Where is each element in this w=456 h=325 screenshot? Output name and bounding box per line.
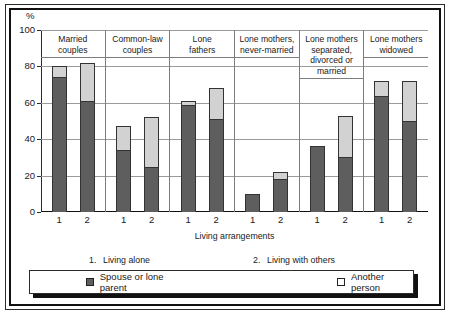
y-axis-tick-label: 60: [0, 98, 35, 108]
bar-segment-spouse-or-lone-parent: [80, 101, 95, 212]
bar[interactable]: [80, 63, 95, 212]
bar-segment-spouse-or-lone-parent: [310, 146, 325, 212]
legend: Spouse or lone parent Another person: [29, 270, 414, 294]
bar-segment-another-person: [52, 66, 67, 77]
bar-segment-spouse-or-lone-parent: [374, 96, 389, 212]
y-axis-tick-label: 40: [0, 134, 35, 144]
bar-segment-spouse-or-lone-parent: [273, 179, 288, 212]
bar-segment-spouse-or-lone-parent: [116, 150, 131, 212]
bar[interactable]: [116, 126, 131, 212]
x-axis-title: Living arrangements: [41, 231, 428, 241]
x-tick-group: 12: [235, 214, 300, 225]
bar-segment-another-person: [273, 172, 288, 179]
bar-group: [41, 30, 106, 212]
bar[interactable]: [181, 101, 196, 212]
bar[interactable]: [245, 194, 260, 212]
legend-label-spouse-or-lone-parent: Spouse or lone parent: [100, 271, 189, 293]
x-axis-tick-label: 1: [374, 214, 389, 225]
x-axis-tick-label: 2: [209, 214, 224, 225]
bar[interactable]: [209, 88, 224, 212]
x-axis-tick-label: 1: [245, 214, 260, 225]
bar[interactable]: [338, 116, 353, 212]
x-axis-tick-label: 1: [181, 214, 196, 225]
x-axis-tick-label: 1: [52, 214, 67, 225]
bar-segment-spouse-or-lone-parent: [338, 157, 353, 212]
bar-group: [299, 30, 364, 212]
bar-segment-another-person: [80, 63, 95, 101]
bar[interactable]: [273, 172, 288, 212]
bar[interactable]: [374, 81, 389, 212]
x-axis-tick-label: 2: [80, 214, 95, 225]
bar-group: [235, 30, 300, 212]
bar-segment-another-person: [144, 117, 159, 166]
bar-segment-spouse-or-lone-parent: [181, 105, 196, 212]
bar-segment-another-person: [338, 116, 353, 158]
bar-segment-spouse-or-lone-parent: [402, 121, 417, 212]
x-axis-tick-label: 2: [273, 214, 288, 225]
legend-item-another-person: Another person: [337, 271, 413, 293]
legend-swatch-dark-icon: [86, 278, 94, 286]
bar-segment-spouse-or-lone-parent: [209, 119, 224, 212]
bar[interactable]: [144, 117, 159, 212]
x-axis-tick-label: 2: [402, 214, 417, 225]
y-axis-unit-label: %: [26, 10, 34, 21]
bar-segment-another-person: [116, 126, 131, 150]
chart-figure: % 020406080100 MarriedcouplesCommon-lawc…: [0, 0, 456, 325]
x-axis-tick-label: 2: [144, 214, 159, 225]
x-tick-group: 12: [41, 214, 106, 225]
bar-segment-another-person: [374, 81, 389, 96]
subgroup-key-2-num: 2.: [253, 255, 267, 265]
legend-label-another-person: Another person: [351, 271, 413, 293]
bar-segment-spouse-or-lone-parent: [144, 167, 159, 213]
bar-segment-spouse-or-lone-parent: [52, 77, 67, 212]
legend-swatch-light-icon: [337, 278, 345, 286]
subgroup-key-2-label: Living with others: [267, 255, 335, 265]
bar-group: [106, 30, 171, 212]
bar-segment-another-person: [402, 81, 417, 121]
x-tick-group: 12: [106, 214, 171, 225]
x-tick-group: 12: [299, 214, 364, 225]
bar[interactable]: [310, 146, 325, 212]
y-axis-tick-label: 80: [0, 62, 35, 72]
subgroup-key-2: 2.Living with others: [253, 255, 335, 265]
y-axis-tick-label: 0: [0, 207, 35, 217]
bar-group: [364, 30, 429, 212]
subgroup-key-1-label: Living alone: [103, 255, 150, 265]
bar-segment-spouse-or-lone-parent: [245, 194, 260, 212]
x-tick-group: 12: [170, 214, 235, 225]
y-axis-tick-label: 100: [0, 25, 35, 35]
x-axis-tick-label: 1: [116, 214, 131, 225]
y-axis-tick-label: 20: [0, 171, 35, 181]
x-tick-group: 12: [364, 214, 429, 225]
x-axis-tick-label: 2: [338, 214, 353, 225]
x-axis-tick-labels: 121212121212: [41, 214, 428, 225]
bar-segment-another-person: [209, 88, 224, 119]
bar-group: [170, 30, 235, 212]
x-axis-tick-label: 1: [310, 214, 325, 225]
bars-layer: [41, 30, 428, 212]
legend-item-spouse-or-lone-parent: Spouse or lone parent: [86, 271, 189, 293]
bar[interactable]: [52, 66, 67, 212]
subgroup-key-1-num: 1.: [89, 255, 103, 265]
y-axis-tick-mark: [37, 212, 41, 213]
bar[interactable]: [402, 81, 417, 212]
subgroup-key-1: 1.Living alone: [89, 255, 150, 265]
